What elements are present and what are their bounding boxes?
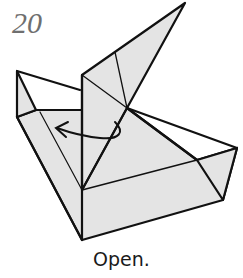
left-flap [17,71,36,117]
origami-diagram [0,0,243,250]
base-body [17,108,237,240]
step-caption: Open. [0,248,243,270]
